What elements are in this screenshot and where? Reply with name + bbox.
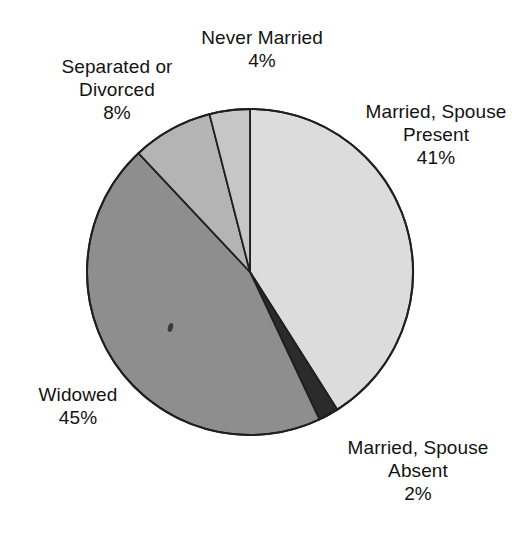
pie-chart-figure: Married, Spouse Present 41% Never Marrie… <box>0 0 522 544</box>
slice-value-separated-or-divorced: 8% <box>22 101 212 124</box>
slice-label-line2: Absent <box>318 459 518 482</box>
slice-label-line1: Never Married <box>162 26 362 49</box>
slice-label-line2: Divorced <box>22 78 212 101</box>
slice-value-widowed: 45% <box>8 406 148 429</box>
slice-label-line1: Widowed <box>8 383 148 406</box>
slice-label-line1: Married, Spouse <box>350 100 522 123</box>
slice-label-married-spouse-absent: Married, Spouse Absent 2% <box>318 436 518 505</box>
slice-label-married-spouse-present: Married, Spouse Present 41% <box>350 100 522 169</box>
slice-value-married-spouse-present: 41% <box>350 146 522 169</box>
slice-label-widowed: Widowed 45% <box>8 383 148 429</box>
slice-label-line1: Married, Spouse <box>318 436 518 459</box>
slice-label-line2: Present <box>350 123 522 146</box>
slice-value-married-spouse-absent: 2% <box>318 482 518 505</box>
slice-label-separated-or-divorced: Separated or Divorced 8% <box>22 55 212 124</box>
slice-label-line1: Separated or <box>22 55 212 78</box>
